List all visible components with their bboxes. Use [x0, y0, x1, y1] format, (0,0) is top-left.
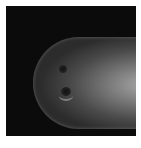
spot-rim-highlight	[59, 91, 73, 101]
organism-body	[33, 37, 136, 129]
micrograph-frame	[6, 6, 136, 136]
dark-spot-upper	[59, 65, 67, 73]
